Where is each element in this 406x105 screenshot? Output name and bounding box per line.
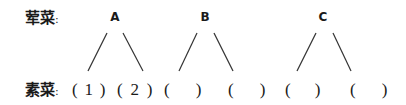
branch-B-right [214, 33, 233, 71]
answer-slot-1-value: 1 [78, 80, 100, 100]
branch-C-left [297, 33, 316, 71]
branch-C-right [333, 33, 351, 71]
meal-combination-tree-diagram: 荤菜: A B C 素菜: (1) (2) () () () () [0, 0, 406, 105]
answer-slot-5[interactable]: () [285, 80, 320, 100]
vegetable-dishes-label-colon: : [55, 85, 59, 98]
answer-slot-2[interactable]: (2) [117, 80, 152, 100]
answer-slot-6[interactable]: () [350, 80, 387, 100]
answer-slot-2-value: 2 [123, 80, 147, 100]
tree-branches [0, 0, 406, 105]
answer-slot-4[interactable]: () [228, 80, 265, 100]
branch-A-left [88, 33, 107, 71]
answer-slot-1[interactable]: (1) [72, 80, 105, 100]
vegetable-dishes-label-text: 素菜 [25, 81, 55, 99]
vegetable-dishes-label: 素菜: [25, 81, 59, 101]
branch-B-left [179, 33, 197, 71]
answer-slot-3[interactable]: () [164, 80, 201, 100]
branch-A-right [123, 33, 143, 71]
